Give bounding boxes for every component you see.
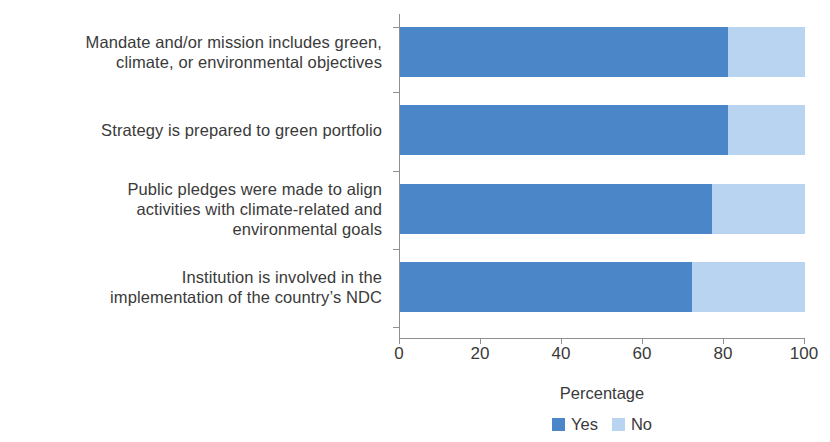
legend-item-no[interactable]: No <box>612 416 652 432</box>
category-axis-labels: Mandate and/or mission includes green,cl… <box>0 0 390 340</box>
legend-label: Yes <box>571 416 598 432</box>
bar-row <box>400 184 805 234</box>
x-axis-tick-label: 0 <box>394 344 403 364</box>
bar-segment-no <box>692 262 805 312</box>
category-label: Mandate and/or mission includes green,cl… <box>0 32 382 72</box>
x-axis-title: Percentage <box>399 384 805 403</box>
bar-segment-yes <box>400 27 728 77</box>
y-axis-tick <box>393 249 399 250</box>
legend-item-yes[interactable]: Yes <box>552 416 598 432</box>
bar-segment-yes <box>400 262 692 312</box>
x-axis-tick-label: 40 <box>552 344 571 364</box>
y-axis-tick <box>393 327 399 328</box>
bar-row <box>400 27 805 77</box>
y-axis-tick <box>393 27 399 28</box>
category-label-line: environmental goals <box>0 219 382 239</box>
category-label-line: Strategy is prepared to green portfolio <box>0 120 382 140</box>
y-axis-tick <box>393 171 399 172</box>
category-label: Institution is involved in theimplementa… <box>0 267 382 307</box>
stacked-bar-chart: Mandate and/or mission includes green,cl… <box>0 0 830 442</box>
plot-area <box>399 14 805 338</box>
legend-label: No <box>631 416 652 432</box>
bar-segment-no <box>728 27 805 77</box>
category-label-line: Public pledges were made to align <box>0 179 382 199</box>
x-axis-tick-label: 60 <box>633 344 652 364</box>
category-label: Strategy is prepared to green portfolio <box>0 120 382 140</box>
bar-segment-no <box>728 105 805 155</box>
x-axis-tick-label: 100 <box>790 344 818 364</box>
bar-row <box>400 105 805 155</box>
x-axis-tick-label: 80 <box>714 344 733 364</box>
x-axis-tick-label: 20 <box>471 344 490 364</box>
y-axis-tick <box>393 92 399 93</box>
x-axis-line <box>399 338 805 339</box>
legend-swatch-icon <box>612 418 625 431</box>
legend-swatch-icon <box>552 418 565 431</box>
bar-segment-yes <box>400 184 712 234</box>
category-label: Public pledges were made to alignactivit… <box>0 179 382 239</box>
category-label-line: activities with climate-related and <box>0 199 382 219</box>
chart-legend: YesNo <box>399 416 805 432</box>
bar-segment-no <box>712 184 805 234</box>
bar-segment-yes <box>400 105 728 155</box>
bar-row <box>400 262 805 312</box>
category-label-line: Mandate and/or mission includes green, <box>0 32 382 52</box>
category-label-line: Institution is involved in the <box>0 267 382 287</box>
category-label-line: implementation of the country’s NDC <box>0 287 382 307</box>
category-label-line: climate, or environmental objectives <box>0 52 382 72</box>
